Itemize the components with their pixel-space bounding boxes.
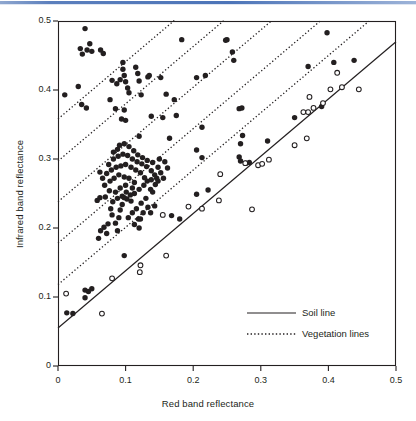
data-point-filled [126,144,131,149]
data-point-filled [174,113,179,118]
data-point-filled [111,156,116,161]
data-point-open [340,85,345,90]
data-point-open [218,172,223,177]
data-point-filled [167,136,172,141]
data-point-open [321,101,326,106]
data-point-filled [149,177,154,182]
data-point-open [110,276,115,281]
data-point-filled [179,37,184,42]
data-point-filled [114,81,119,86]
data-point-filled [140,210,145,215]
data-point-filled [116,215,121,220]
data-point-filled [135,152,140,157]
data-point-filled [126,90,131,95]
data-point-filled [110,199,115,204]
y-tick-label: 0 [25,360,51,370]
data-point-filled [147,73,152,78]
data-point-open [267,157,272,162]
data-point-filled [116,172,121,177]
data-point-open [137,270,142,275]
data-point-filled [125,153,130,158]
data-point-filled [199,125,204,130]
data-point-filled [331,60,336,65]
data-point-filled [205,187,210,192]
data-point-filled [145,205,150,210]
data-point-filled [104,231,109,236]
data-point-filled [240,133,245,138]
data-point-open [200,206,205,211]
data-point-filled [150,160,155,165]
data-point-filled [87,41,92,46]
data-point-filled [132,222,137,227]
data-point-filled [133,167,138,172]
vegetation-line-4 [58,21,224,161]
data-point-filled [113,165,118,170]
data-point-filled [89,49,94,54]
data-point-filled [138,92,143,97]
data-point-open [307,95,312,100]
data-point-filled [122,253,127,258]
data-point-filled [100,176,105,181]
data-point-filled [141,183,146,188]
data-point-open [328,87,333,92]
data-point-filled [97,169,102,174]
data-points-group [62,26,361,316]
data-point-filled [102,183,107,188]
data-point-filled [78,46,83,51]
data-point-open [64,291,69,296]
data-point-filled [115,228,120,233]
data-point-filled [120,67,125,72]
x-axis-label: Red band reflectance [0,398,416,409]
data-point-filled [108,206,113,211]
data-point-filled [107,178,112,183]
data-point-filled [96,236,101,241]
legend-group [247,313,296,334]
x-tick-label: 0.1 [111,375,141,385]
y-tick-label: 0.3 [25,153,51,163]
data-point-filled [97,195,102,200]
data-point-filled [98,228,103,233]
data-point-filled [305,64,310,69]
data-point-filled [84,105,89,110]
data-point-filled [64,310,69,315]
data-point-filled [161,176,166,181]
data-point-filled [203,73,208,78]
legend-label-soil-line: Soil line [302,307,335,318]
data-point-filled [113,189,118,194]
data-point-filled [89,286,94,291]
data-point-filled [120,151,125,156]
x-tick-label: 0 [43,375,73,385]
data-point-filled [138,200,143,205]
data-point-filled [149,114,154,119]
header-accent-rule-shadow [0,4,416,5]
data-point-open [160,212,165,217]
data-point-filled [125,85,130,90]
data-point-filled [101,51,106,56]
data-point-filled [113,106,118,111]
data-point-filled [144,164,149,169]
data-point-filled [122,141,127,146]
data-point-filled [135,71,140,76]
x-tick-label: 0.2 [178,375,208,385]
data-point-open [100,311,105,316]
data-point-filled [131,148,136,153]
data-point-open [311,106,316,111]
data-point-open [186,204,191,209]
data-point-filled [292,115,297,120]
data-point-filled [155,165,160,170]
data-point-filled [134,159,139,164]
axes-frame [59,22,396,366]
data-point-filled [82,295,87,300]
data-point-filled [165,165,170,170]
data-point-filled [122,195,127,200]
data-point-filled [158,75,163,80]
data-point-filled [107,97,112,102]
data-point-open [335,70,340,75]
data-point-filled [115,154,120,159]
x-tick-label: 0.5 [381,375,411,385]
data-point-filled [130,185,135,190]
data-point-filled [324,30,329,35]
data-point-filled [103,194,108,199]
data-point-filled [133,65,138,70]
figure-canvas: Soil line Vegetation lines Infrared band… [0,0,416,421]
